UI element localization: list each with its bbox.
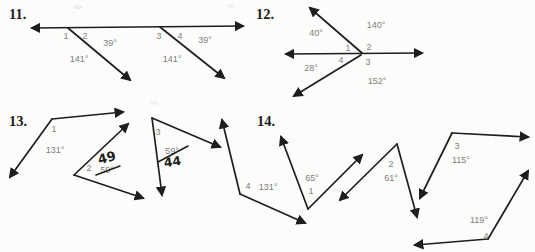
transversal-main-line: [32, 26, 243, 28]
angle-number-label: 4: [338, 55, 343, 65]
ray: [340, 144, 397, 200]
ray: [452, 133, 528, 137]
angle-measure-label: 141°: [70, 54, 89, 64]
angle-number-label: 1: [63, 31, 68, 41]
scan-smudge: [227, 4, 235, 8]
ray: [415, 239, 488, 245]
angle-measure-label: 141°: [163, 54, 182, 64]
worksheet-page: 11.123439°141°39°141°12.124340°140°28°15…: [0, 0, 535, 252]
ray: [222, 120, 240, 194]
angle-measure-label: 119°: [470, 215, 488, 225]
ray: [52, 112, 123, 119]
scan-smudge: [331, 188, 341, 192]
angle-number-label: 4: [245, 181, 250, 191]
ray: [152, 118, 220, 147]
angle-measure-label: 28°: [304, 63, 318, 73]
angle-measure-label: 140°: [367, 20, 386, 30]
angle-measure-label: 131°: [259, 182, 278, 192]
angle-number-label: 3: [454, 141, 459, 151]
angle-measure-label: 131°: [46, 145, 65, 155]
angle-measure-label: 39°: [103, 38, 117, 48]
scan-smudge: [73, 5, 83, 9]
angle-measure-label: 65°: [305, 173, 319, 183]
problem-number-14: 14.: [257, 113, 275, 129]
ray: [420, 133, 452, 198]
ray: [397, 144, 417, 217]
ray: [74, 175, 143, 198]
horizontal-line: [286, 53, 422, 54]
angle-measure-label: 152°: [368, 76, 387, 86]
angle-number-label: 3: [365, 57, 370, 67]
ray: [160, 27, 224, 78]
problem-number-13: 13.: [9, 113, 27, 129]
problem-number-11: 11.: [9, 6, 26, 22]
angle-number-label: 4: [177, 31, 182, 41]
angle-measure-label: 115°: [452, 155, 470, 165]
angle-measure-label: 39°: [198, 35, 212, 45]
handwritten-correction: 44: [163, 153, 183, 170]
angle-number-label: 2: [366, 42, 371, 52]
angle-number-label: 1: [345, 43, 350, 53]
ray: [294, 55, 361, 96]
angle-measure-label: 40°: [309, 28, 323, 38]
angle-number-label: 2: [388, 159, 393, 169]
angle-number-label: 4: [483, 231, 488, 241]
worksheet-svg: 11.123439°141°39°141°12.124340°140°28°15…: [0, 0, 535, 252]
angle-number-label: 2: [82, 31, 87, 41]
angle-number-label: 3: [155, 127, 160, 137]
angle-measure-label: 61°: [384, 173, 398, 183]
ray: [240, 194, 305, 223]
scan-smudge: [150, 101, 158, 105]
problem-12: 12.124340°140°28°152°: [256, 6, 422, 96]
problem-14: 14.123465°61°115°119°: [257, 113, 528, 245]
angle-number-label: 1: [308, 186, 313, 196]
angle-number-label: 3: [156, 31, 161, 41]
angle-number-label: 2: [86, 163, 91, 173]
problem-11: 11.123439°141°39°141°: [9, 6, 243, 80]
angle-number-label: 1: [51, 124, 56, 134]
handwritten-correction: 49: [96, 148, 117, 167]
ray: [488, 171, 528, 239]
problem-number-12: 12.: [256, 6, 274, 22]
ray: [281, 137, 308, 209]
